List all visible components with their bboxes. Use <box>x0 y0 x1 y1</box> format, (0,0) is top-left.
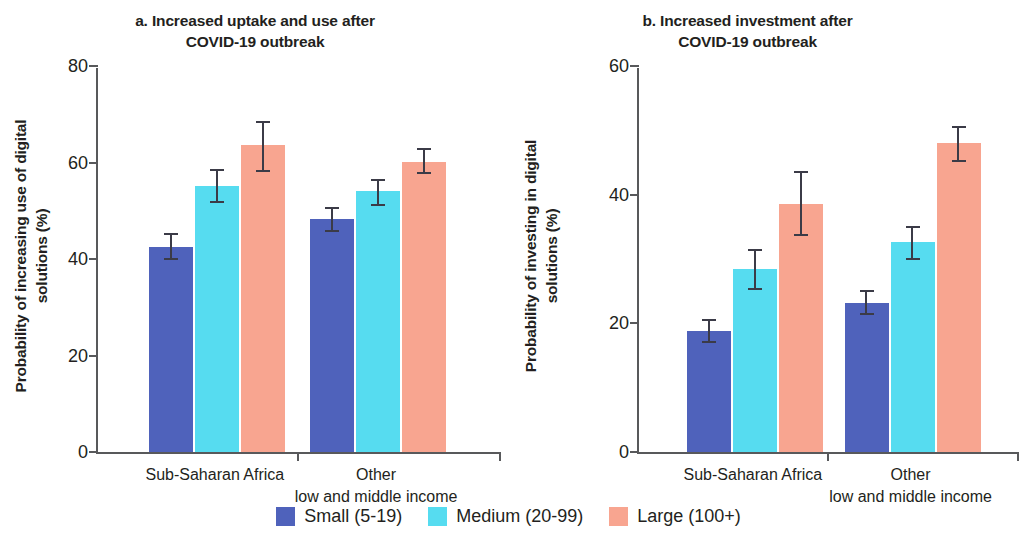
error-cap-b-g1-s1-upper <box>906 226 920 228</box>
error-bar-a-g0-s1 <box>216 170 218 202</box>
panel-b-title: b. Increased investment after COVID-19 o… <box>508 10 1017 52</box>
panel-a-y-tick-label: 40 <box>68 249 88 270</box>
error-cap-b-g1-s0-lower <box>860 313 874 315</box>
error-cap-b-g0-s0-lower <box>702 341 716 343</box>
panel-b-x-tick-end <box>1017 452 1019 461</box>
bar-a-g1-s2 <box>402 162 446 452</box>
error-bar-a-g0-s2 <box>262 122 264 172</box>
error-cap-a-g0-s0-upper <box>164 233 178 235</box>
panel-b-y-tick-label: 40 <box>609 184 629 205</box>
bar-b-g0-s2 <box>779 204 823 452</box>
error-cap-a-g0-s2-upper <box>256 121 270 123</box>
error-cap-a-g0-s1-lower <box>210 201 224 203</box>
bar-a-g0-s1 <box>195 186 239 452</box>
legend-label-small: Small (5-19) <box>304 506 402 527</box>
panel-b-y-tick-label: 20 <box>609 313 629 334</box>
legend-label-medium: Medium (20-99) <box>456 506 583 527</box>
panel-a-y-tick-label: 80 <box>68 56 88 77</box>
bar-a-g1-s0 <box>310 219 354 452</box>
error-bar-b-g0-s0 <box>708 320 710 341</box>
panel-a-y-axis-title: Probability of increasing use of digital… <box>10 56 52 456</box>
bar-b-g1-s0 <box>845 303 889 452</box>
error-cap-a-g0-s0-lower <box>164 258 178 260</box>
bar-a-g0-s0 <box>149 247 193 452</box>
panel-a-y-tick-label: 20 <box>68 345 88 366</box>
error-cap-b-g0-s1-lower <box>748 288 762 290</box>
error-cap-a-g0-s1-upper <box>210 169 224 171</box>
panel-b-y-axis-title: Probability of investing in digital solu… <box>520 56 562 456</box>
error-bar-a-g1-s2 <box>423 149 425 173</box>
panel-b-y-tick <box>630 322 639 324</box>
error-cap-a-g0-s2-lower <box>256 170 270 172</box>
error-bar-a-g1-s0 <box>331 208 333 231</box>
bar-a-g0-s2 <box>241 145 285 452</box>
error-bar-b-g0-s1 <box>754 249 756 288</box>
panel-a-y-tick <box>89 65 98 67</box>
bar-a-g1-s1 <box>356 191 400 453</box>
legend-label-large: Large (100+) <box>637 506 741 527</box>
legend-swatch-large-icon <box>609 507 628 526</box>
panel-a-x-tick <box>297 452 299 461</box>
legend-item-small: Small (5-19) <box>276 506 402 527</box>
error-bar-a-g0-s0 <box>170 234 172 259</box>
panel-b-plot-area: 0204060 <box>637 68 1017 454</box>
panel-b-y-tick <box>630 65 639 67</box>
panel-b-y-tick <box>630 194 639 196</box>
legend-swatch-small-icon <box>276 507 295 526</box>
error-cap-a-g1-s2-lower <box>417 172 431 174</box>
error-cap-a-g1-s0-lower <box>325 230 339 232</box>
legend-item-medium: Medium (20-99) <box>428 506 583 527</box>
error-cap-a-g1-s0-upper <box>325 207 339 209</box>
panel-a-y-tick-label: 60 <box>68 152 88 173</box>
error-bar-b-g1-s0 <box>865 291 867 314</box>
panel-a-x-tick-end <box>499 452 501 461</box>
error-bar-b-g1-s2 <box>957 126 959 161</box>
error-cap-b-g1-s1-lower <box>906 258 920 260</box>
error-cap-b-g1-s2-lower <box>952 160 966 162</box>
panel-a-y-tick-label: 0 <box>78 442 88 463</box>
panel-a: a. Increased uptake and use after COVID-… <box>0 0 510 500</box>
error-bar-b-g1-s1 <box>911 227 913 259</box>
panel-a-y-tick <box>89 355 98 357</box>
error-bar-b-g0-s2 <box>800 172 802 235</box>
panel-b-y-tick-label: 60 <box>609 56 629 77</box>
panel-a-y-tick <box>89 162 98 164</box>
error-cap-a-g1-s1-lower <box>371 204 385 206</box>
error-cap-b-g0-s1-upper <box>748 249 762 251</box>
bar-b-g1-s1 <box>891 242 935 452</box>
panel-b-y-tick-label: 0 <box>619 442 629 463</box>
error-bar-a-g1-s1 <box>377 179 379 204</box>
error-cap-b-g0-s2-upper <box>794 171 808 173</box>
bar-b-g0-s0 <box>687 331 731 452</box>
panel-a-y-tick <box>89 258 98 260</box>
panel-a-plot-area: 020406080 <box>96 68 499 454</box>
panel-a-x-label-1: Other low and middle income <box>236 464 516 508</box>
legend: Small (5-19) Medium (20-99) Large (100+) <box>0 506 1017 527</box>
panel-b-x-label-1: Other low and middle income <box>771 464 1023 508</box>
error-cap-a-g1-s1-upper <box>371 179 385 181</box>
panel-a-y-tick <box>89 451 98 453</box>
legend-item-large: Large (100+) <box>609 506 741 527</box>
error-cap-b-g1-s2-upper <box>952 126 966 128</box>
panel-b-x-tick <box>827 452 829 461</box>
bar-b-g0-s1 <box>733 269 777 452</box>
error-cap-b-g0-s0-upper <box>702 319 716 321</box>
error-cap-b-g0-s2-lower <box>794 234 808 236</box>
error-cap-a-g1-s2-upper <box>417 148 431 150</box>
panel-a-title: a. Increased uptake and use after COVID-… <box>0 10 510 52</box>
panel-b-y-tick <box>630 451 639 453</box>
error-cap-b-g1-s0-upper <box>860 290 874 292</box>
legend-swatch-medium-icon <box>428 507 447 526</box>
bar-b-g1-s2 <box>937 143 981 452</box>
